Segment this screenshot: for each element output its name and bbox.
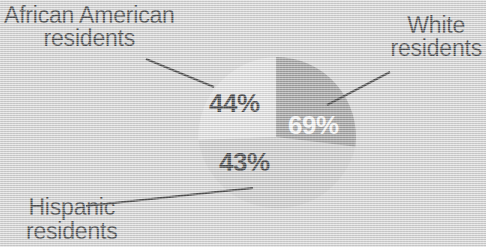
slice-value-white-residents: 69% xyxy=(288,110,339,141)
callout-label-line-1: Hispanic xyxy=(28,194,115,220)
leader-line-african-american-residents xyxy=(146,59,214,87)
callout-label-african-american-residents: African American residents xyxy=(4,4,175,51)
callout-label-line-2: residents xyxy=(390,37,482,60)
callout-label-white-residents: White residents xyxy=(390,14,482,61)
callout-label-hispanic-residents: Hispanic residents xyxy=(26,196,118,243)
callout-label-line-2: residents xyxy=(4,27,175,50)
callout-label-line-2: residents xyxy=(26,220,118,243)
callout-label-line-1: White xyxy=(407,12,465,38)
callout-label-line-1: African American xyxy=(4,2,175,28)
slice-value-hispanic-residents: 43% xyxy=(219,147,270,178)
pie-chart-figure: African American residents White residen… xyxy=(0,0,486,247)
slice-value-african-american-residents: 44% xyxy=(209,88,260,119)
